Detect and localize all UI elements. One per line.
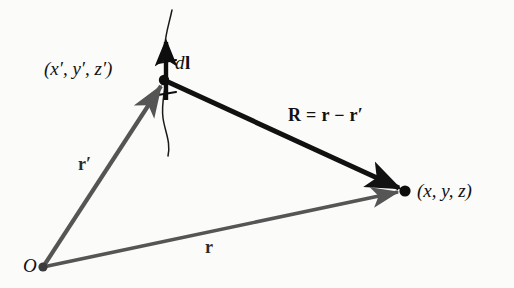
dl-label-l: l [185, 52, 191, 73]
separation-vector-label: R = r − r′ [288, 106, 363, 124]
r-prime-label: r′ [78, 155, 91, 173]
dl-label: dl [175, 53, 190, 72]
dl-upper-tick [158, 60, 176, 63]
dl-label-d: d [175, 52, 185, 73]
dl-lower-tick [158, 92, 176, 95]
source-point-marker [159, 75, 169, 85]
diagram-canvas [0, 0, 514, 288]
r-label: r [205, 238, 213, 256]
vector-diagram-figure: (x′, y′, z′) dl R = r − r′ (x, y, z) r′ … [0, 0, 514, 288]
R-vector [166, 81, 399, 188]
origin-label: O [23, 256, 37, 275]
source-point-label: (x′, y′, z′) [44, 59, 112, 78]
field-point-marker [399, 185, 410, 196]
field-point-label: (x, y, z) [417, 181, 472, 200]
origin-point-marker [38, 262, 47, 271]
r-prime-vector [43, 86, 161, 267]
r-vector [43, 192, 398, 267]
